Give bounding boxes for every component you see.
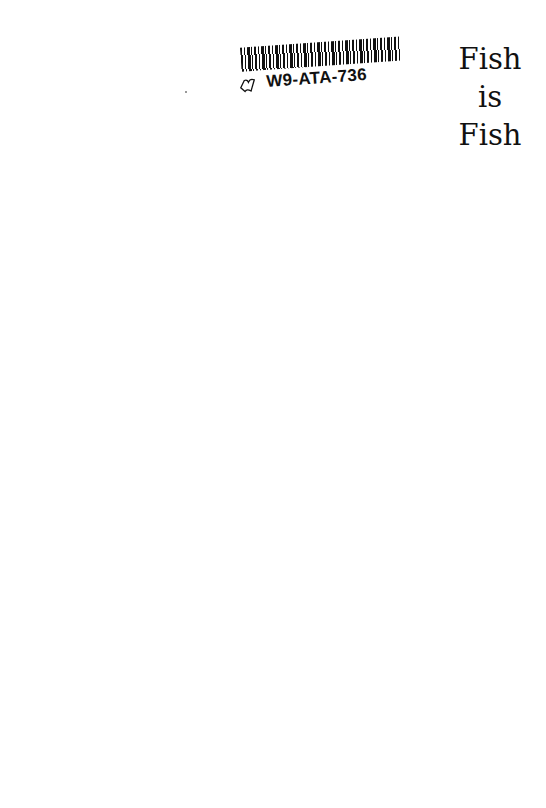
- barcode: [240, 37, 401, 72]
- library-barcode-sticker: W9-ATA-736: [236, 36, 409, 104]
- title-line-2: is: [440, 78, 540, 116]
- barcode-number: W9-ATA-736: [266, 65, 368, 92]
- book-outline-icon: [238, 77, 257, 94]
- speck: [185, 91, 187, 93]
- book-title: Fish is Fish: [440, 40, 540, 154]
- title-line-1: Fish: [440, 40, 540, 78]
- title-line-3: Fish: [440, 116, 540, 154]
